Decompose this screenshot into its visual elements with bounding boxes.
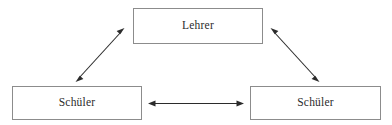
arrow-head-icon	[271, 28, 279, 34]
edge-teacher-student-right	[271, 28, 320, 82]
arrow-head-icon	[312, 76, 320, 82]
edge-student-left-student-right	[148, 100, 244, 106]
diagram-node-student-right[interactable]: Schüler	[250, 86, 381, 120]
arrow-head-icon	[237, 100, 245, 106]
diagram-node-student-left[interactable]: Schüler	[12, 86, 142, 120]
diagram-node-label: Schüler	[297, 97, 334, 109]
diagram-node-label: Schüler	[59, 97, 96, 109]
edge-teacher-student-left	[76, 28, 125, 82]
diagram-node-teacher[interactable]: Lehrer	[133, 8, 263, 44]
diagram-canvas: Lehrer Schüler Schüler	[0, 0, 392, 125]
diagram-node-label: Lehrer	[182, 20, 214, 32]
arrow-head-icon	[148, 100, 156, 106]
arrow-head-icon	[117, 28, 125, 34]
arrow-head-icon	[76, 76, 84, 82]
